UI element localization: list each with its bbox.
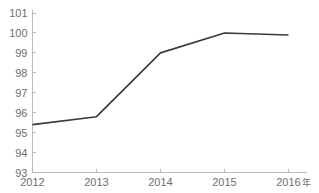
y-tick-label: 95 (15, 127, 27, 139)
y-tick-label: 96 (15, 107, 27, 119)
y-tick-label: 98 (15, 67, 27, 79)
chart-background (0, 0, 319, 193)
x-tick-label: 2013 (84, 176, 108, 188)
x-axis-unit-label: 年 (302, 177, 311, 188)
chart-canvas: 93949596979899100101 2012201320142015201… (0, 0, 319, 193)
y-tick-label: 99 (15, 47, 27, 59)
y-tick-label: 101 (9, 7, 27, 19)
y-tick-label: 97 (15, 87, 27, 99)
x-tick-label: 2016 (276, 176, 300, 188)
y-tick-label: 100 (9, 27, 27, 39)
y-tick-label: 94 (15, 147, 27, 159)
x-axis-unit-label-group: 年 (302, 177, 311, 188)
x-tick-label: 2015 (212, 176, 236, 188)
x-tick-label: 2014 (148, 176, 172, 188)
x-tick-label: 2012 (20, 176, 44, 188)
line-chart: 93949596979899100101 2012201320142015201… (0, 0, 319, 193)
